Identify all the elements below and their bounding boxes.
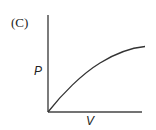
y-axis-label: P	[34, 65, 42, 77]
pv-diagram: (C) P V	[0, 0, 156, 130]
plot-area	[0, 0, 156, 130]
x-axis-label: V	[86, 115, 94, 127]
pv-curve	[48, 47, 145, 113]
